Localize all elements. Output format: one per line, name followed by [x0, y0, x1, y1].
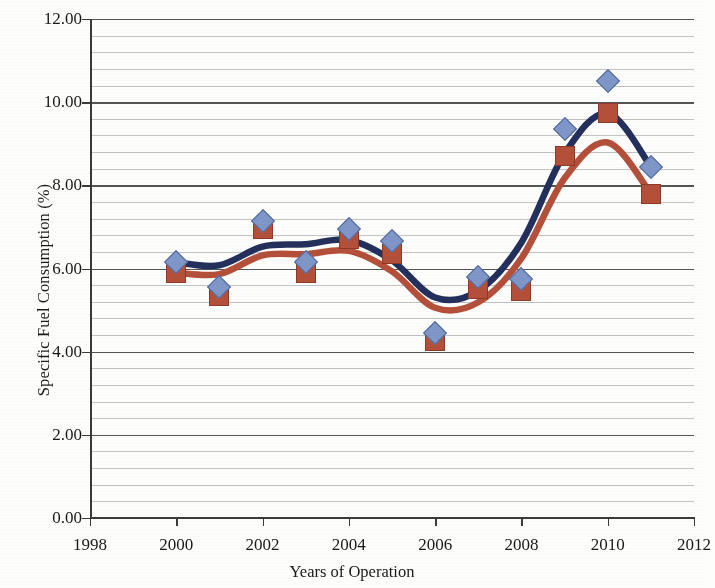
x-axis-tick: [263, 517, 264, 526]
y-axis-tick: [82, 518, 90, 519]
y-axis-tick-label: 6.00: [8, 259, 82, 279]
plot-area: 0.002.004.006.008.0010.0012.00 199820002…: [90, 19, 694, 518]
x-axis-tick: [608, 517, 609, 526]
y-axis-tick-label: 10.00: [8, 92, 82, 112]
x-axis-tick: [176, 517, 177, 526]
y-axis-tick-label: 0.00: [8, 508, 82, 528]
y-axis-tick: [82, 269, 90, 270]
x-axis-tick-label: 2012: [654, 535, 715, 555]
y-axis-tick-label: 12.00: [8, 9, 82, 29]
x-axis-tick: [694, 517, 695, 526]
x-axis-tick-label: 2000: [136, 535, 216, 555]
data-point-square: [641, 184, 661, 204]
x-axis-tick-label: 1998: [50, 535, 130, 555]
x-axis-tick-label: 2008: [481, 535, 561, 555]
y-axis-tick-label: 2.00: [8, 425, 82, 445]
x-axis-tick-label: 2002: [223, 535, 303, 555]
x-axis-tick: [521, 517, 522, 526]
x-axis-tick-label: 2004: [309, 535, 389, 555]
x-axis-tick: [435, 517, 436, 526]
x-axis-tick: [90, 517, 91, 526]
x-axis-title: Years of Operation: [0, 562, 704, 582]
data-point-square: [555, 146, 575, 166]
y-axis-tick: [82, 352, 90, 353]
y-axis-tick: [82, 19, 90, 20]
y-axis-tick: [82, 102, 90, 103]
y-axis-tick-label: 8.00: [8, 175, 82, 195]
y-axis-tick: [82, 435, 90, 436]
x-axis-tick-label: 2006: [395, 535, 475, 555]
x-axis-tick-label: 2010: [568, 535, 648, 555]
x-axis-tick: [349, 517, 350, 526]
data-point-square: [598, 103, 618, 123]
y-axis-tick-label: 4.00: [8, 342, 82, 362]
trendline-series-1: [176, 113, 651, 300]
y-axis-tick: [82, 185, 90, 186]
